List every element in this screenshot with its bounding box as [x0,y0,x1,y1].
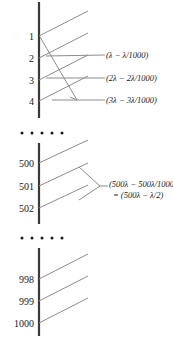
ray-4 [39,76,88,101]
ellipsis-top-icon [21,132,64,135]
slit-label-501: 501 [4,182,34,192]
ray-1000 [39,298,88,323]
ray-group-bottom [39,254,88,323]
leader-group-middle [79,167,108,200]
ray-1 [39,11,88,36]
leader-1 [46,55,105,56]
annotation-path-diff-500: (500λ − 500λ/1000) = (500λ − λ/2) [109,179,173,202]
ray-2 [39,33,88,58]
slit-label-500: 500 [4,159,34,169]
slit-label-999: 999 [0,297,34,307]
slit-label-1: 1 [14,32,34,42]
slit-label-4: 4 [14,97,34,107]
ray-501 [39,163,88,186]
slit-label-998: 998 [0,275,34,285]
ray-502 [39,185,88,208]
annotation-path-diff-2: (2λ − 2λ/1000) [106,73,157,84]
annotation-path-diff-3: (3λ − 3λ/1000) [106,95,157,106]
ray-500 [39,140,88,163]
annotation-path-diff-1: (λ − λ/1000) [106,50,148,61]
leader-500-upper [79,167,100,186]
slit-label-3: 3 [14,76,34,86]
slit-label-1000: 1000 [0,319,34,329]
ray-group-middle [39,140,88,208]
annotation-path-diff-500-line1: (500λ − 500λ/1000) [109,179,173,189]
annotation-path-diff-500-line2: = (500λ − λ/2) [109,190,173,201]
slit-label-502: 502 [4,204,34,214]
ray-999 [39,276,88,301]
ellipsis-bottom-icon [21,237,64,240]
ray-998 [39,254,88,279]
slit-label-2: 2 [14,54,34,64]
diagram-canvas: 1 2 3 4 500 501 502 998 999 1000 (λ − λ/… [0,0,173,338]
